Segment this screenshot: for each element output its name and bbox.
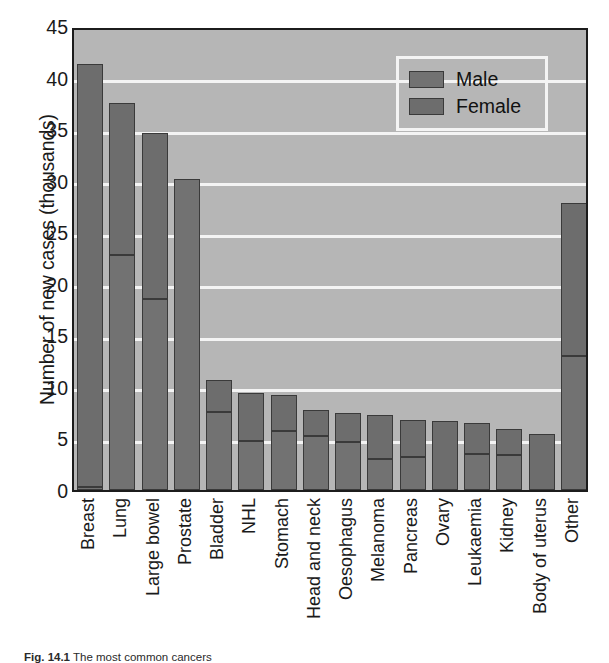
x-tick-label-slot: Leukaemia (459, 492, 491, 632)
legend: MaleFemale (396, 56, 548, 131)
bar-stack[interactable] (142, 133, 168, 490)
x-tick-label-slot: Body of uterus (524, 492, 556, 632)
y-tick-label: 0 (22, 482, 68, 502)
x-tick-label: Breast (79, 498, 97, 550)
bar-segment-male[interactable] (142, 299, 168, 490)
x-tick-label-slot: Oesophagus (330, 492, 362, 632)
y-tick-label: 35 (22, 121, 68, 141)
bar-stack[interactable] (109, 103, 135, 490)
bar-segment-female[interactable] (206, 380, 232, 412)
bar-segment-female[interactable] (529, 434, 555, 490)
y-axis-tick-labels: 051015202530354045 (22, 28, 68, 492)
bar-segment-male[interactable] (238, 441, 264, 490)
figure-container: Number of new cases (thousands) 05101520… (0, 0, 609, 663)
x-tick-label-slot: Lung (104, 492, 136, 632)
bar-stack[interactable] (77, 64, 103, 490)
bar-segment-male[interactable] (174, 179, 200, 490)
bar-segment-female[interactable] (303, 410, 329, 437)
x-tick-label: Lung (111, 498, 129, 538)
bar-stack[interactable] (174, 179, 200, 490)
x-tick-label: Head and neck (305, 498, 323, 619)
bar-segment-male[interactable] (303, 436, 329, 490)
bar-stack[interactable] (271, 395, 297, 490)
bar-segment-female[interactable] (271, 395, 297, 431)
x-tick-label: Large bowel (144, 498, 162, 596)
bar-segment-female[interactable] (464, 423, 490, 454)
y-tick-label: 5 (22, 431, 68, 451)
legend-item-male[interactable]: Male (409, 66, 535, 93)
bar-segment-female[interactable] (367, 415, 393, 459)
bar-segment-female[interactable] (142, 133, 168, 299)
x-tick-label: Leukaemia (466, 498, 484, 586)
bar-stack[interactable] (561, 203, 587, 490)
bar-stack[interactable] (367, 415, 393, 490)
bar-stack[interactable] (464, 423, 490, 490)
x-tick-label: Pancreas (402, 498, 420, 574)
caption-number: Fig. 14.1 (24, 651, 70, 663)
bar-segment-female[interactable] (496, 429, 522, 455)
bar-segment-male[interactable] (400, 457, 426, 490)
bar-segment-female[interactable] (77, 64, 103, 487)
legend-swatch-icon (409, 98, 444, 115)
bar-segment-male[interactable] (109, 255, 135, 490)
x-axis-tick-labels: BreastLungLarge bowelProstateBladderNHLS… (72, 492, 588, 632)
legend-item-female[interactable]: Female (409, 93, 535, 120)
y-tick-label: 30 (22, 173, 68, 193)
x-tick-label-slot: Bladder (201, 492, 233, 632)
legend-label: Male (456, 70, 498, 90)
x-tick-label-slot: Pancreas (395, 492, 427, 632)
bar-segment-male[interactable] (271, 431, 297, 490)
bar-segment-female[interactable] (238, 393, 264, 440)
caption-text: The most common cancers (73, 651, 212, 663)
bar-stack[interactable] (529, 434, 555, 490)
x-tick-label-slot: Large bowel (137, 492, 169, 632)
x-tick-label: Body of uterus (531, 498, 549, 614)
x-tick-label-slot: NHL (233, 492, 265, 632)
legend-label: Female (456, 97, 521, 117)
bar-segment-female[interactable] (400, 420, 426, 457)
x-tick-label-slot: Prostate (169, 492, 201, 632)
x-tick-label: Stomach (273, 498, 291, 569)
x-tick-label-slot: Breast (72, 492, 104, 632)
x-tick-label: Prostate (176, 498, 194, 565)
bar-stack[interactable] (400, 420, 426, 490)
x-tick-label: Other (563, 498, 581, 543)
x-tick-label: Melanoma (369, 498, 387, 582)
x-tick-label-slot: Kidney (491, 492, 523, 632)
y-tick-label: 20 (22, 276, 68, 296)
bar-stack[interactable] (335, 413, 361, 490)
y-tick-label: 45 (22, 18, 68, 38)
bar-stack[interactable] (496, 429, 522, 490)
bar-segment-male[interactable] (561, 356, 587, 490)
x-tick-label-slot: Other (556, 492, 588, 632)
bar-stack[interactable] (303, 410, 329, 490)
y-tick-label: 40 (22, 70, 68, 90)
x-tick-label: Bladder (208, 498, 226, 560)
bar-segment-male[interactable] (206, 412, 232, 490)
x-tick-label: Oesophagus (337, 498, 355, 600)
x-tick-label: Kidney (498, 498, 516, 553)
x-tick-label: Ovary (434, 498, 452, 546)
bar-segment-female[interactable] (561, 203, 587, 356)
x-tick-label: NHL (240, 498, 258, 534)
bar-segment-male[interactable] (367, 459, 393, 490)
bar-segment-male[interactable] (464, 454, 490, 490)
x-tick-label-slot: Stomach (266, 492, 298, 632)
bar-segment-female[interactable] (335, 413, 361, 442)
bar-segment-female[interactable] (109, 103, 135, 255)
bar-segment-male[interactable] (496, 455, 522, 490)
legend-swatch-icon (409, 71, 444, 88)
bar-stack[interactable] (432, 421, 458, 490)
x-tick-label-slot: Head and neck (298, 492, 330, 632)
x-tick-label-slot: Melanoma (362, 492, 394, 632)
y-tick-label: 15 (22, 328, 68, 348)
figure-caption: Fig. 14.1 The most common cancers (24, 651, 584, 663)
bar-stack[interactable] (206, 380, 232, 490)
x-tick-label-slot: Ovary (427, 492, 459, 632)
bar-segment-male[interactable] (77, 487, 103, 490)
y-tick-label: 10 (22, 379, 68, 399)
bar-segment-female[interactable] (432, 421, 458, 490)
bar-stack[interactable] (238, 393, 264, 490)
bar-segment-male[interactable] (335, 442, 361, 490)
y-tick-label: 25 (22, 224, 68, 244)
